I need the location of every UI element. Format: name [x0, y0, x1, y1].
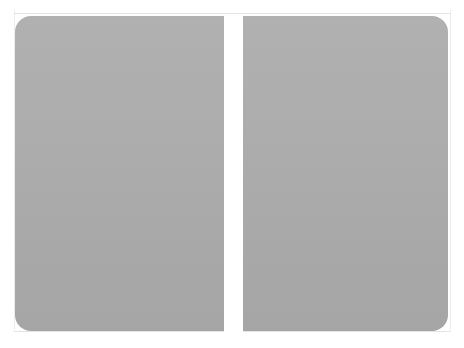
top-cutoff-text	[170, 0, 460, 3]
right-panel	[243, 16, 448, 331]
left-panel	[15, 16, 224, 331]
center-gap	[224, 14, 243, 332]
